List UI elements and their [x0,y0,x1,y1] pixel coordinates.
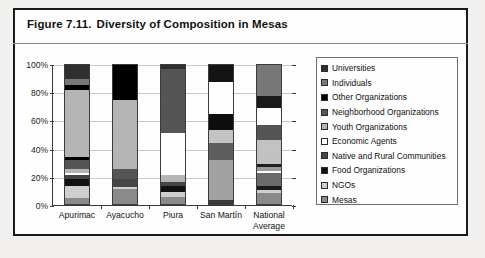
y-axis-tick-right [292,93,296,94]
figure-number: Figure 7.11. [27,18,91,30]
bar-segment [65,65,89,79]
y-axis-tick [50,93,54,94]
figure-title: Figure 7.11.Diversity of Composition in … [27,18,288,30]
bar-segment [257,108,281,125]
figure-title-text: Diversity of Composition in Mesas [96,18,287,30]
legend-item[interactable]: Neighborhood Organizations [321,105,457,120]
y-axis-tick [50,150,54,151]
x-axis-tick [149,205,150,209]
bar-segment [113,65,137,100]
legend-item-label: NGOs [332,180,355,190]
legend-item-label: Native and Rural Communities [332,151,446,161]
y-axis-tick [50,206,54,207]
y-axis-tick-label: 80% [31,88,48,98]
legend-swatch-icon [321,138,328,145]
chart-legend: UniversitiesIndividualsOther Organizatio… [316,57,458,205]
legend-item[interactable]: Individuals [321,76,457,91]
bar-segment [113,100,137,170]
bar-segment [209,65,233,82]
bar-segment [257,125,281,140]
legend-item-label: Food Organizations [332,165,405,175]
legend-item[interactable]: Mesas [321,192,457,207]
legend-swatch-icon [321,123,328,130]
bar-segment [257,96,281,109]
y-axis-tick-label: 20% [31,173,48,183]
legend-swatch-icon [321,94,328,101]
y-axis-tick-label: 60% [31,116,48,126]
stacked-bar[interactable] [160,64,186,205]
legend-swatch-icon [321,79,328,86]
legend-swatch-icon [321,109,328,116]
bar-segment [65,179,89,186]
y-axis-tick-right [292,65,296,66]
stacked-bar[interactable] [112,64,138,205]
x-axis-label: National Average [238,210,300,231]
bar-segment [257,140,281,164]
legend-item[interactable]: NGOs [321,178,457,193]
legend-item[interactable]: Economic Agents [321,134,457,149]
y-axis-tick-right [292,121,296,122]
legend-swatch-icon [321,65,328,72]
bar-segment [209,160,233,200]
y-axis-tick [50,65,54,66]
legend-swatch-icon [321,182,328,189]
legend-item-label: Neighborhood Organizations [332,107,439,117]
bar-segment [161,175,185,182]
legend-swatch-icon [321,196,328,203]
x-axis-tick [197,205,198,209]
x-axis-tick [101,205,102,209]
bar-segment [209,200,233,204]
legend-item-label: Mesas [332,195,357,205]
stacked-bar[interactable] [64,64,90,205]
bar-segment [257,65,281,96]
x-axis-tick [245,205,246,209]
legend-item-label: Individuals [332,78,372,88]
bar-segment [161,197,185,204]
y-axis-tick-right [292,178,296,179]
chart-axes: 0%20%40%60%80%100%ApurimacAyacuchoPiuraS… [52,65,292,206]
legend-item-label: Universities [332,63,375,73]
bar-segment [65,198,89,204]
bar-segment [209,114,233,131]
bar-segment [209,143,233,160]
bar-segment [209,82,233,114]
stacked-bar[interactable] [256,64,282,205]
legend-item[interactable]: Universities [321,61,457,76]
bar-segment [113,169,137,179]
legend-item[interactable]: Native and Rural Communities [321,149,457,164]
bar-segment [257,173,281,186]
y-axis-tick-label: 40% [31,145,48,155]
legend-item[interactable]: Food Organizations [321,163,457,178]
stacked-bar[interactable] [208,64,234,205]
bar-segment [65,186,89,199]
bar-segment [209,130,233,143]
y-axis-tick-label: 100% [26,60,48,70]
bar-segment [161,133,185,175]
bar-segment [113,189,137,204]
legend-swatch-icon [321,152,328,159]
legend-item-label: Economic Agents [332,136,397,146]
chart-plot-area: 0%20%40%60%80%100%ApurimacAyacuchoPiuraS… [22,55,310,215]
y-axis-tick [50,178,54,179]
figure-page: Figure 7.11.Diversity of Composition in … [0,0,485,258]
bar-segment [257,193,281,204]
bar-segment [65,160,89,170]
bar-segment [161,69,185,133]
legend-item[interactable]: Other Organizations [321,90,457,105]
x-axis-tick [293,205,294,209]
legend-item-label: Other Organizations [332,92,407,102]
bar-segment [65,90,89,157]
y-axis-tick-right [292,150,296,151]
legend-item[interactable]: Youth Organizations [321,119,457,134]
legend-swatch-icon [321,167,328,174]
y-axis-tick [50,121,54,122]
title-divider [13,43,468,44]
legend-item-label: Youth Organizations [332,122,407,132]
bar-segment [113,179,137,187]
